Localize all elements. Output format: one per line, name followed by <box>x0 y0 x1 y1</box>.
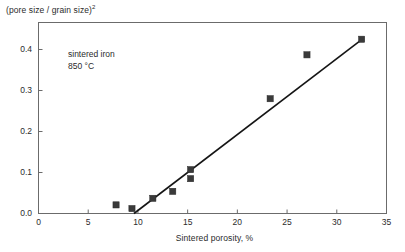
axes-box <box>39 23 387 214</box>
y-tick-label: 0.2 <box>4 126 32 136</box>
x-tick-label: 30 <box>324 217 350 227</box>
data-points <box>113 36 365 212</box>
y-tick-label: 0.0 <box>4 208 32 218</box>
data-point-marker <box>170 188 176 194</box>
trend-line-segment <box>134 38 364 213</box>
y-tick-label: 0.3 <box>4 85 32 95</box>
data-point-marker <box>304 52 310 58</box>
axis-ticks <box>39 50 387 214</box>
y-tick-label: 0.1 <box>4 167 32 177</box>
data-point-marker <box>129 205 135 211</box>
x-tick-label: 5 <box>75 217 101 227</box>
chart-figure: (pore size / grain size)2 Sintered poros… <box>0 0 405 252</box>
x-tick-label: 0 <box>26 217 52 227</box>
data-point-marker <box>359 36 365 42</box>
data-point-marker <box>188 176 194 182</box>
x-tick-label: 15 <box>175 217 201 227</box>
y-tick-label: 0.4 <box>4 44 32 54</box>
x-tick-label: 25 <box>274 217 300 227</box>
data-point-marker <box>150 195 156 201</box>
x-tick-label: 20 <box>224 217 250 227</box>
x-tick-label: 10 <box>125 217 151 227</box>
axes-frame <box>39 23 387 214</box>
x-tick-label: 35 <box>374 217 400 227</box>
data-point-marker <box>113 202 119 208</box>
data-point-marker <box>267 96 273 102</box>
data-point-marker <box>188 167 194 173</box>
trend-line <box>134 38 364 213</box>
plot-canvas <box>0 0 405 252</box>
